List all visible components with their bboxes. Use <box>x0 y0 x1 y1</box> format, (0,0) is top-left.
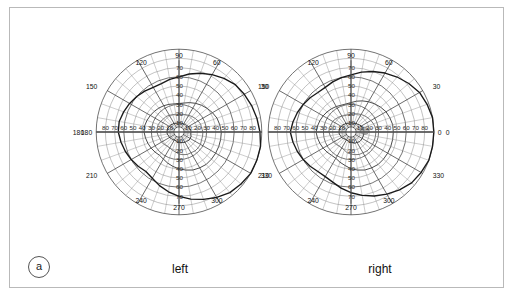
h-tick-left-60: 60 <box>292 124 299 131</box>
meridian-label-0: 0 <box>446 129 450 136</box>
meridian-120 <box>138 60 177 128</box>
meridian-label-30: 30 <box>433 83 441 90</box>
h-tick-right-10: 10 <box>185 124 192 131</box>
v-tick-down-60: 60 <box>348 183 355 190</box>
v-tick-up-50: 50 <box>176 82 183 89</box>
v-tick-down-30: 30 <box>348 156 355 163</box>
h-tick-right-70: 70 <box>412 124 419 131</box>
h-tick-right-70: 70 <box>240 124 247 131</box>
meridian-label-210: 210 <box>258 172 270 179</box>
meridian-190 <box>97 133 174 147</box>
left-eye-label: left <box>135 262 225 276</box>
v-tick-up-20: 20 <box>348 110 355 117</box>
meridian-label-300: 300 <box>383 197 395 204</box>
perimetry-svg: 8070605040302010102030405060708010203040… <box>10 8 505 289</box>
meridian-label-300: 300 <box>211 197 223 204</box>
h-tick-right-80: 80 <box>421 124 428 131</box>
h-tick-right-50: 50 <box>394 124 401 131</box>
meridian-label-270: 270 <box>345 204 357 211</box>
v-tick-down-10: 10 <box>176 137 183 144</box>
h-tick-right-30: 30 <box>203 124 210 131</box>
meridian-350 <box>184 133 261 147</box>
v-tick-down-50: 50 <box>348 174 355 181</box>
v-tick-up-60: 60 <box>348 73 355 80</box>
panel-label: a <box>28 256 50 278</box>
h-tick-left-10: 10 <box>338 124 345 131</box>
meridian-350 <box>356 133 433 147</box>
v-tick-down-40: 40 <box>176 165 183 172</box>
v-tick-down-30: 30 <box>176 156 183 163</box>
h-tick-left-30: 30 <box>148 124 155 131</box>
h-tick-left-40: 40 <box>139 124 146 131</box>
v-tick-up-70: 70 <box>348 64 355 71</box>
h-tick-left-50: 50 <box>130 124 137 131</box>
h-tick-right-20: 20 <box>366 124 373 131</box>
meridian-label-0: 0 <box>438 129 442 136</box>
h-tick-left-40: 40 <box>311 124 318 131</box>
v-tick-down-70: 70 <box>176 193 183 200</box>
h-tick-right-60: 60 <box>231 124 238 131</box>
meridian-label-330: 330 <box>433 172 445 179</box>
meridian-330 <box>355 134 423 173</box>
panel-left: 8070605040302010102030405060708010203040… <box>73 49 272 215</box>
meridian-label-210: 210 <box>86 172 98 179</box>
h-tick-right-60: 60 <box>403 124 410 131</box>
v-tick-up-30: 30 <box>348 101 355 108</box>
h-tick-left-60: 60 <box>120 124 127 131</box>
meridian-label-90: 90 <box>347 52 355 59</box>
right-eye-label: right <box>335 262 425 276</box>
meridian-200 <box>273 134 346 161</box>
perimetry-chart: 8070605040302010102030405060708010203040… <box>10 8 505 289</box>
meridian-330 <box>183 134 251 173</box>
h-tick-right-40: 40 <box>212 124 219 131</box>
v-tick-up-30: 30 <box>176 101 183 108</box>
figure-frame: 8070605040302010102030405060708010203040… <box>9 7 504 288</box>
h-tick-right-30: 30 <box>375 124 382 131</box>
h-tick-left-20: 20 <box>157 124 164 131</box>
meridian-340 <box>183 134 256 161</box>
v-tick-up-70: 70 <box>176 64 183 71</box>
isopter-outer-boundary <box>118 73 260 199</box>
meridian-label-150: 150 <box>258 83 270 90</box>
v-tick-up-10: 10 <box>348 119 355 126</box>
v-tick-up-60: 60 <box>176 73 183 80</box>
h-tick-right-40: 40 <box>384 124 391 131</box>
meridian-label-270: 270 <box>173 204 185 211</box>
meridian-label-240: 240 <box>307 197 319 204</box>
h-tick-left-10: 10 <box>166 124 173 131</box>
v-tick-down-70: 70 <box>348 193 355 200</box>
h-tick-right-10: 10 <box>357 124 364 131</box>
v-tick-up-40: 40 <box>176 91 183 98</box>
v-tick-down-20: 20 <box>348 147 355 154</box>
h-tick-right-50: 50 <box>222 124 229 131</box>
v-tick-up-20: 20 <box>176 110 183 117</box>
meridian-label-120: 120 <box>135 59 147 66</box>
v-tick-down-20: 20 <box>176 147 183 154</box>
h-tick-left-70: 70 <box>111 124 118 131</box>
v-tick-up-10: 10 <box>176 119 183 126</box>
h-tick-right-80: 80 <box>249 124 256 131</box>
v-tick-up-40: 40 <box>348 91 355 98</box>
meridian-70 <box>181 54 208 127</box>
meridian-label-180: 180 <box>81 129 93 136</box>
panel-right: 8070605040302010102030405060708010203040… <box>258 49 450 215</box>
meridian-250 <box>323 136 350 209</box>
meridian-110 <box>323 54 350 127</box>
meridian-label-60: 60 <box>385 59 393 66</box>
h-tick-left-80: 80 <box>274 124 281 131</box>
meridian-label-90: 90 <box>175 52 183 59</box>
v-tick-down-50: 50 <box>176 174 183 181</box>
h-tick-left-80: 80 <box>102 124 109 131</box>
meridian-label-240: 240 <box>135 197 147 204</box>
h-tick-right-20: 20 <box>194 124 201 131</box>
meridian-60 <box>181 60 220 128</box>
meridian-label-120: 120 <box>307 59 319 66</box>
meridian-label-150: 150 <box>86 83 98 90</box>
h-tick-left-30: 30 <box>320 124 327 131</box>
v-tick-down-40: 40 <box>348 165 355 172</box>
h-tick-left-20: 20 <box>329 124 336 131</box>
meridian-290 <box>353 136 380 209</box>
meridian-340 <box>355 134 428 161</box>
v-tick-up-50: 50 <box>348 82 355 89</box>
meridian-60 <box>353 60 392 128</box>
